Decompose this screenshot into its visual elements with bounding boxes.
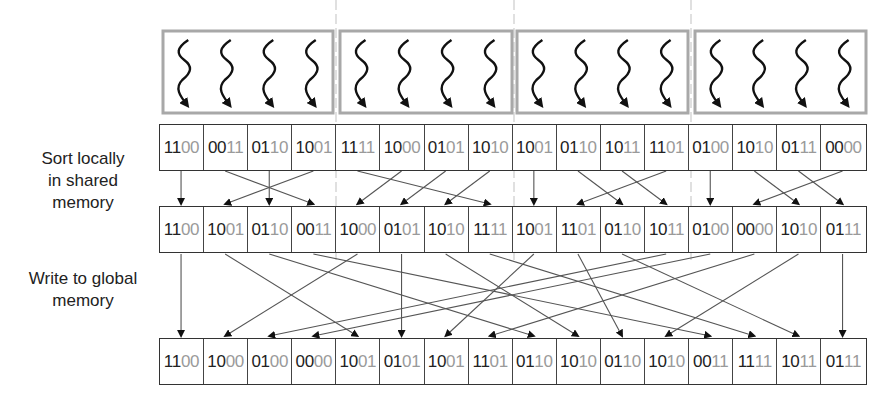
bit-cell: 0100 <box>689 207 733 252</box>
high-bits: 10 <box>296 138 314 158</box>
low-bits: 11 <box>755 352 772 372</box>
high-bits: 11 <box>561 220 578 240</box>
high-bits: 01 <box>604 220 622 240</box>
bit-cell: 1010 <box>469 125 513 170</box>
high-bits: 01 <box>826 352 844 372</box>
low-bits: 10 <box>270 138 288 158</box>
high-bits: 01 <box>251 352 269 372</box>
high-bits: 11 <box>164 220 181 240</box>
global-write-arrows <box>181 254 843 336</box>
high-bits: 10 <box>605 138 623 158</box>
locally-sorted-row: 1100100101100011100001011010111110011101… <box>159 206 867 253</box>
bit-cell: 1101 <box>645 125 689 170</box>
bit-cell: 1001 <box>204 207 248 252</box>
low-bits: 10 <box>534 352 552 372</box>
low-bits: 01 <box>358 352 376 372</box>
bit-cell: 0100 <box>248 339 292 384</box>
high-bits: 01 <box>251 220 269 240</box>
input-row: 1100001101101001111110000101101010010110… <box>159 124 867 171</box>
bit-cell: 0111 <box>821 339 865 384</box>
bit-cell: 0111 <box>777 125 821 170</box>
low-bits: 10 <box>490 138 508 158</box>
low-bits: 01 <box>402 352 420 372</box>
low-bits: 00 <box>226 352 244 372</box>
low-bits: 00 <box>181 220 199 240</box>
high-bits: 10 <box>560 352 578 372</box>
high-bits: 01 <box>560 138 578 158</box>
bit-cell: 1111 <box>336 125 380 170</box>
bit-cell: 0000 <box>292 339 336 384</box>
high-bits: 00 <box>296 352 314 372</box>
bit-cell: 1011 <box>777 339 821 384</box>
bit-cell: 1010 <box>645 339 689 384</box>
bit-cell: 0110 <box>248 125 292 170</box>
high-bits: 01 <box>428 138 446 158</box>
low-bits: 10 <box>578 138 596 158</box>
bit-cell: 0110 <box>601 207 645 252</box>
low-bits: 11 <box>667 220 684 240</box>
high-bits: 01 <box>604 352 622 372</box>
bit-cell: 0101 <box>380 339 424 384</box>
bit-cell: 1100 <box>160 125 204 170</box>
high-bits: 00 <box>208 138 226 158</box>
low-bits: 10 <box>622 220 640 240</box>
low-bits: 11 <box>711 352 728 372</box>
high-bits: 11 <box>164 352 181 372</box>
bit-cell: 0011 <box>292 207 336 252</box>
bit-cell: 0101 <box>425 125 469 170</box>
bit-cell: 0111 <box>821 207 865 252</box>
local-sort-arrows <box>181 171 843 204</box>
bit-cell: 1100 <box>160 207 204 252</box>
bit-cell: 1101 <box>557 207 601 252</box>
high-bits: 10 <box>781 352 799 372</box>
low-bits: 10 <box>755 138 773 158</box>
high-bits: 01 <box>826 220 844 240</box>
bit-cell: 1011 <box>601 125 645 170</box>
bit-cell: 1010 <box>425 207 469 252</box>
high-bits: 00 <box>825 138 843 158</box>
low-bits: 00 <box>711 138 729 158</box>
low-bits: 00 <box>314 352 332 372</box>
bit-cell: 0011 <box>689 339 733 384</box>
high-bits: 01 <box>384 220 402 240</box>
bit-cell: 0101 <box>380 207 424 252</box>
low-bits: 01 <box>534 138 552 158</box>
bit-cell: 1010 <box>777 207 821 252</box>
high-bits: 10 <box>428 352 446 372</box>
bit-cell: 0000 <box>733 207 777 252</box>
low-bits: 01 <box>314 138 332 158</box>
bit-cell: 1001 <box>513 207 557 252</box>
low-bits: 10 <box>446 220 464 240</box>
bit-cell: 1000 <box>204 339 248 384</box>
high-bits: 10 <box>340 220 358 240</box>
bit-cell: 0000 <box>821 125 865 170</box>
high-bits: 11 <box>738 352 755 372</box>
low-bits: 01 <box>534 220 552 240</box>
high-bits: 10 <box>428 220 446 240</box>
bit-cell: 1010 <box>733 125 777 170</box>
low-bits: 00 <box>711 220 729 240</box>
high-bits: 10 <box>516 220 534 240</box>
bit-cell: 1000 <box>336 207 380 252</box>
low-bits: 00 <box>181 138 199 158</box>
bit-cell: 1111 <box>733 339 777 384</box>
low-bits: 11 <box>314 220 331 240</box>
bit-cell: 1001 <box>425 339 469 384</box>
low-bits: 10 <box>622 352 640 372</box>
low-bits: 10 <box>270 220 288 240</box>
low-bits: 00 <box>755 220 773 240</box>
low-bits: 11 <box>844 220 861 240</box>
high-bits: 01 <box>692 220 710 240</box>
bit-cell: 1001 <box>336 339 380 384</box>
sort-locally-label: Sort locally in shared memory <box>18 148 148 214</box>
high-bits: 11 <box>649 138 666 158</box>
high-bits: 01 <box>781 138 799 158</box>
high-bits: 10 <box>516 138 534 158</box>
bit-cell: 1001 <box>513 125 557 170</box>
low-bits: 11 <box>358 138 375 158</box>
low-bits: 11 <box>623 138 640 158</box>
bit-cell: 1101 <box>469 339 513 384</box>
bit-cell: 0110 <box>513 339 557 384</box>
low-bits: 01 <box>666 138 684 158</box>
low-bits: 01 <box>490 352 508 372</box>
